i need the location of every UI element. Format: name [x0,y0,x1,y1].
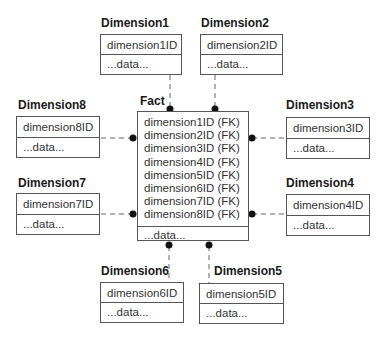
dimension8-key: dimension8ID [17,117,99,138]
dimension6-entity: dimension6ID ...data... [100,282,184,323]
fact-key: dimension4ID (FK) [144,156,248,169]
fact-key: dimension8ID (FK) [144,208,248,221]
fact-title: Fact [140,94,165,108]
dimension2-entity: dimension2ID ...data... [200,34,283,75]
dimension8-title: Dimension8 [18,98,86,112]
dimension3-entity: dimension3ID ...data... [286,117,370,159]
fact-key: dimension3ID (FK) [144,142,248,155]
dimension2-title: Dimension2 [201,16,269,30]
dimension7-title: Dimension7 [18,176,86,190]
fact-data: ...data... [138,227,248,243]
fact-key: dimension7ID (FK) [144,195,248,208]
dimension7-entity: dimension7ID ...data... [16,193,100,235]
dimension2-data: ...data... [201,55,282,74]
dimension8-data: ...data... [17,138,99,157]
fact-key: dimension1ID (FK) [144,116,248,129]
dimension7-key: dimension7ID [17,194,99,215]
dimension6-title: Dimension6 [101,264,169,278]
dimension1-key: dimension1ID [101,35,181,55]
dimension1-title: Dimension1 [101,16,169,30]
dimension5-entity: dimension5ID ...data... [199,283,284,324]
dimension5-data: ...data... [200,304,283,323]
dimension4-key: dimension4ID [287,195,369,216]
fact-entity: dimension1ID (FK) dimension2ID (FK) dime… [137,111,249,241]
dimension1-data: ...data... [101,55,181,74]
dimension6-key: dimension6ID [101,283,183,303]
dimension4-entity: dimension4ID ...data... [286,194,370,236]
fact-key: dimension2ID (FK) [144,129,248,142]
dimension1-entity: dimension1ID ...data... [100,34,182,75]
fact-keys: dimension1ID (FK) dimension2ID (FK) dime… [138,112,248,227]
connector-dot-4 [249,211,256,218]
connector-dot-3 [249,135,256,142]
dimension8-entity: dimension8ID ...data... [16,116,100,158]
fact-key: dimension6ID (FK) [144,182,248,195]
connector-dot-7 [130,211,137,218]
dimension3-key: dimension3ID [287,118,369,139]
dimension4-title: Dimension4 [286,176,354,190]
dimension7-data: ...data... [17,215,99,234]
connector-dot-8 [130,135,137,142]
dimension4-data: ...data... [287,216,369,235]
fact-key: dimension5ID (FK) [144,169,248,182]
dimension2-key: dimension2ID [201,35,282,55]
dimension3-data: ...data... [287,139,369,158]
dimension3-title: Dimension3 [286,98,354,112]
dimension5-title: Dimension5 [214,264,282,278]
dimension6-data: ...data... [101,303,183,322]
dimension5-key: dimension5ID [200,284,283,304]
